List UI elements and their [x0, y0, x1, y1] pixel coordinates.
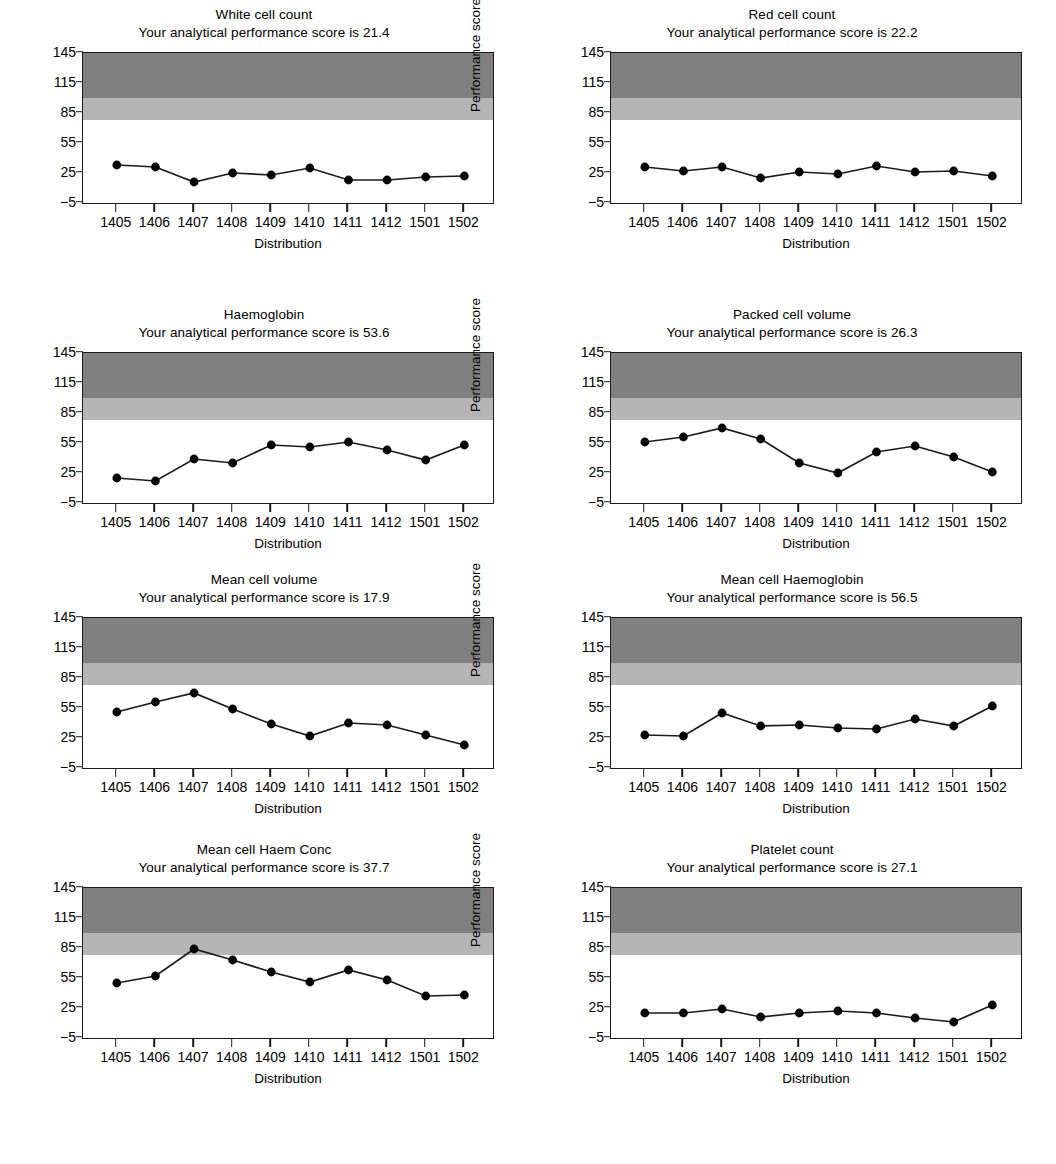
x-tick-mark — [720, 204, 722, 212]
x-tick-mark — [797, 1039, 799, 1047]
x-tick-label: 1501 — [409, 514, 440, 530]
data-point-marker — [112, 978, 121, 987]
x-tick-mark — [192, 1039, 194, 1047]
x-tick-label: 1406 — [667, 779, 698, 795]
data-point-marker — [112, 160, 121, 169]
chart-panel: Platelet countYour analytical performanc… — [528, 835, 1056, 1135]
x-tick-mark — [269, 769, 271, 777]
chart-subtitle-score: Your analytical performance score is 37.… — [0, 859, 528, 877]
y-tick-label: 55 — [34, 969, 76, 985]
x-tick-mark — [424, 504, 426, 512]
x-tick-label: 1502 — [976, 1049, 1007, 1065]
x-tick-label: 1409 — [255, 214, 286, 230]
x-tick-label: 1408 — [216, 1049, 247, 1065]
chart-title: Mean cell Haem Conc — [0, 841, 528, 859]
x-tick-label: 1411 — [860, 1049, 890, 1065]
x-tick-mark — [231, 1039, 233, 1047]
x-tick-mark — [192, 504, 194, 512]
x-tick-label: 1408 — [744, 214, 775, 230]
x-tick-label: 1405 — [628, 214, 659, 230]
data-point-marker — [228, 458, 237, 467]
chart-panel: Mean cell Haem ConcYour analytical perfo… — [0, 835, 528, 1135]
plot-box — [610, 617, 1022, 769]
data-point-marker — [383, 720, 392, 729]
x-tick-mark — [797, 204, 799, 212]
plot-area: Performance score145115855525−5140514061… — [528, 881, 1056, 1081]
chart-panel: Mean cell HaemoglobinYour analytical per… — [528, 565, 1056, 835]
chart-title: Mean cell Haemoglobin — [528, 571, 1056, 589]
x-tick-mark — [269, 1039, 271, 1047]
x-tick-label: 1407 — [705, 779, 736, 795]
x-tick-mark — [115, 1039, 117, 1047]
x-tick-mark — [682, 504, 684, 512]
plot-area: Performance score145115855525−5140514061… — [528, 46, 1056, 246]
y-axis-ticks: 145115855525−5 — [0, 611, 76, 811]
x-tick-label: 1407 — [705, 1049, 736, 1065]
x-tick-mark — [269, 204, 271, 212]
data-series — [83, 353, 493, 503]
chart-panel: Packed cell volumeYour analytical perfor… — [528, 300, 1056, 565]
data-point-marker — [228, 168, 237, 177]
data-point-marker — [756, 1012, 765, 1021]
x-tick-label: 1502 — [976, 514, 1007, 530]
chart-title: Platelet count — [528, 841, 1056, 859]
y-tick-label: 25 — [562, 164, 604, 180]
y-tick-label: 25 — [34, 729, 76, 745]
x-tick-label: 1501 — [937, 779, 968, 795]
x-tick-mark — [991, 1039, 993, 1047]
x-tick-mark — [682, 204, 684, 212]
data-point-marker — [460, 440, 469, 449]
x-tick-mark — [836, 204, 838, 212]
chart-grid: White cell countYour analytical performa… — [0, 0, 1056, 1164]
x-tick-label: 1501 — [937, 214, 968, 230]
data-point-marker — [190, 688, 199, 697]
series-line — [117, 949, 464, 996]
y-tick-label: 85 — [562, 104, 604, 120]
x-tick-mark — [875, 769, 877, 777]
x-tick-label: 1412 — [899, 214, 930, 230]
x-tick-label: 1409 — [255, 779, 286, 795]
x-tick-mark — [759, 1039, 761, 1047]
data-point-marker — [305, 163, 314, 172]
plot-area: Performance score145115855525−5140514061… — [0, 881, 528, 1081]
x-tick-label: 1410 — [293, 514, 324, 530]
x-tick-mark — [720, 1039, 722, 1047]
data-point-marker — [679, 1008, 688, 1017]
data-series — [83, 618, 493, 768]
data-point-marker — [756, 721, 765, 730]
x-axis-label: Distribution — [82, 236, 494, 251]
data-point-marker — [190, 944, 199, 953]
data-point-marker — [151, 697, 160, 706]
data-point-marker — [911, 441, 920, 450]
chart-subtitle-score: Your analytical performance score is 27.… — [528, 859, 1056, 877]
data-point-marker — [267, 967, 276, 976]
x-tick-label: 1502 — [448, 214, 479, 230]
x-tick-label: 1409 — [255, 1049, 286, 1065]
x-tick-label: 1407 — [177, 214, 208, 230]
x-tick-mark — [347, 769, 349, 777]
x-tick-mark — [115, 769, 117, 777]
data-point-marker — [872, 447, 881, 456]
x-tick-mark — [463, 204, 465, 212]
y-tick-label: 115 — [34, 374, 76, 390]
x-axis-label: Distribution — [82, 1071, 494, 1086]
x-tick-mark — [759, 769, 761, 777]
data-point-marker — [718, 162, 727, 171]
x-tick-mark — [385, 1039, 387, 1047]
data-point-marker — [640, 162, 649, 171]
data-point-marker — [872, 161, 881, 170]
x-tick-mark — [991, 204, 993, 212]
x-tick-label: 1407 — [177, 779, 208, 795]
x-tick-label: 1407 — [705, 214, 736, 230]
data-point-marker — [460, 171, 469, 180]
x-tick-mark — [913, 204, 915, 212]
x-tick-mark — [424, 204, 426, 212]
data-point-marker — [151, 476, 160, 485]
data-point-marker — [421, 172, 430, 181]
x-tick-label: 1410 — [293, 214, 324, 230]
series-line — [117, 442, 464, 481]
x-tick-label: 1412 — [371, 214, 402, 230]
x-tick-mark — [308, 769, 310, 777]
x-tick-label: 1412 — [371, 1049, 402, 1065]
plot-box — [82, 52, 494, 204]
